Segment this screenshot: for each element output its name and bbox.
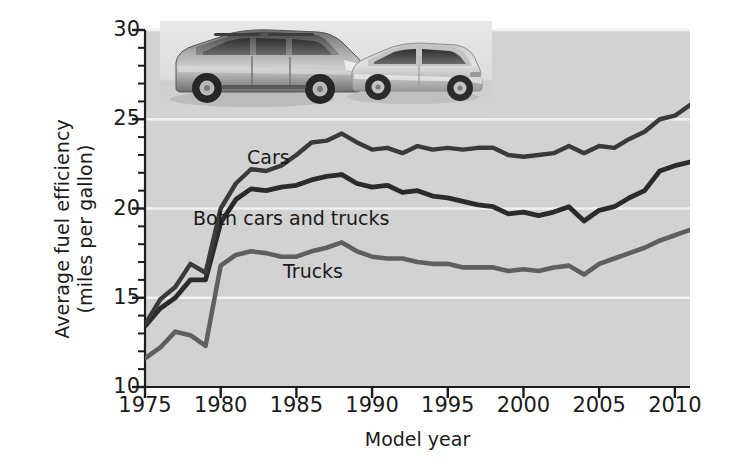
x-tick-label-1990: 1990	[337, 395, 407, 416]
x-tick-label-2000: 2000	[488, 395, 558, 416]
series-label-both-cars-and-trucks: Both cars and trucks	[193, 209, 389, 228]
x-tick-label-1995: 1995	[413, 395, 483, 416]
vehicles-photo	[160, 21, 492, 115]
y-axis-title-line2: (miles per gallon)	[74, 49, 97, 409]
x-tick-label-2010: 2010	[640, 395, 710, 416]
y-tick-label-25: 25	[100, 108, 140, 129]
y-axis-title-line1: Average fuel efficiency	[51, 49, 74, 409]
x-tick-label-1985: 1985	[261, 395, 331, 416]
y-tick-label-20: 20	[100, 198, 140, 219]
x-tick-label-2005: 2005	[564, 395, 634, 416]
x-axis-title: Model year	[145, 428, 690, 450]
y-axis-title: Average fuel efficiency (miles per gallo…	[51, 49, 97, 409]
y-tick-label-30: 30	[100, 19, 140, 40]
series-label-cars: Cars	[247, 148, 290, 167]
x-tick-label-1975: 1975	[110, 395, 180, 416]
y-tick-label-15: 15	[100, 287, 140, 308]
x-tick-label-1980: 1980	[186, 395, 256, 416]
series-label-trucks: Trucks	[283, 262, 343, 281]
fuel-efficiency-chart-figure: 1015202530 19751980198519901995200020052…	[0, 0, 729, 466]
